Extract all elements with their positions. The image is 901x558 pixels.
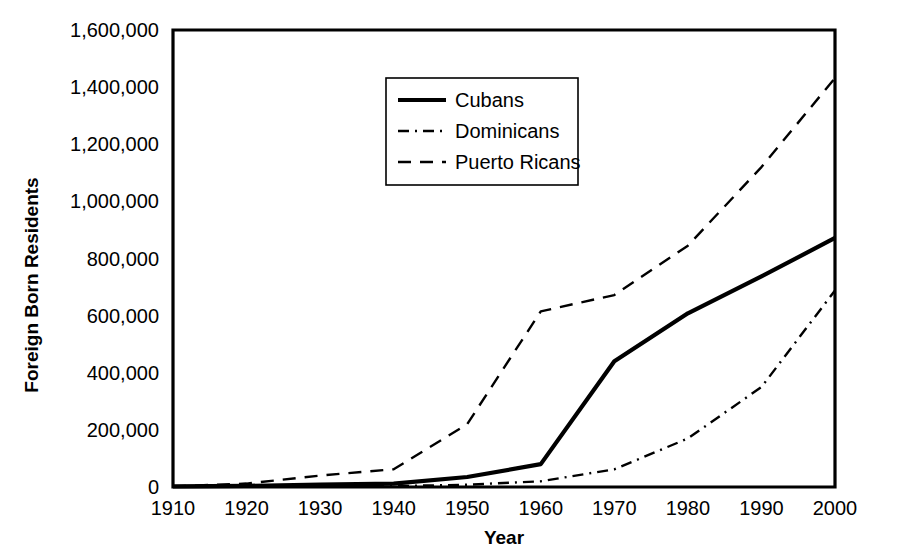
y-tick-label: 800,000 xyxy=(87,248,159,270)
y-tick-label: 200,000 xyxy=(87,419,159,441)
series-line-cubans xyxy=(173,238,835,487)
chart-legend: CubansDominicansPuerto Ricans xyxy=(386,78,581,185)
y-tick-label: 1,000,000 xyxy=(70,190,159,212)
line-chart: 0200,000400,000600,000800,0001,000,0001,… xyxy=(0,0,901,558)
legend-label: Cubans xyxy=(455,89,524,111)
legend-label: Puerto Ricans xyxy=(455,151,581,173)
x-tick-label: 1940 xyxy=(371,497,416,519)
y-tick-label: 0 xyxy=(148,476,159,498)
x-axis-title: Year xyxy=(484,527,525,548)
y-tick-label: 1,600,000 xyxy=(70,19,159,41)
x-axis-tick-labels: 1910192019301940195019601970198019902000 xyxy=(151,497,858,519)
x-tick-label: 1950 xyxy=(445,497,490,519)
x-tick-label: 2000 xyxy=(813,497,858,519)
x-tick-label: 1990 xyxy=(739,497,784,519)
y-axis-title: Foreign Born Residents xyxy=(21,177,42,392)
x-tick-label: 1970 xyxy=(592,497,637,519)
x-tick-label: 1960 xyxy=(519,497,564,519)
y-tick-label: 600,000 xyxy=(87,305,159,327)
y-tick-label: 400,000 xyxy=(87,362,159,384)
legend-label: Dominicans xyxy=(455,120,559,142)
x-tick-label: 1910 xyxy=(151,497,196,519)
x-tick-label: 1980 xyxy=(666,497,711,519)
x-tick-label: 1930 xyxy=(298,497,343,519)
y-axis-tick-labels: 0200,000400,000600,000800,0001,000,0001,… xyxy=(70,19,159,498)
y-tick-label: 1,400,000 xyxy=(70,76,159,98)
series-line-dominicans xyxy=(173,290,835,486)
chart-container: 0200,000400,000600,000800,0001,000,0001,… xyxy=(0,0,901,558)
y-tick-label: 1,200,000 xyxy=(70,133,159,155)
x-tick-label: 1920 xyxy=(224,497,269,519)
